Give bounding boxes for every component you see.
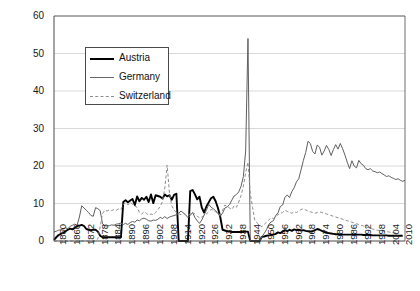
- x-tick-label: 1950: [266, 224, 276, 245]
- x-tick-label: 1860: [58, 224, 68, 245]
- x-tick-label: 1980: [335, 224, 345, 245]
- x-tick-label: 1992: [363, 224, 373, 245]
- x-tick-label: 2004: [391, 224, 401, 245]
- x-tick-label: 1986: [349, 224, 359, 245]
- x-tick-label: 1884: [113, 224, 123, 245]
- x-tick-label: 1968: [307, 224, 317, 245]
- x-tick-label: 1908: [169, 224, 179, 245]
- x-tick-label: 1920: [197, 224, 207, 245]
- legend-label-switzerland: Switzerland: [119, 91, 171, 101]
- y-tick-label: 60: [14, 11, 44, 21]
- x-tick-label: 1998: [377, 224, 387, 245]
- line-chart: 0102030405060 18601866187218781884189018…: [0, 0, 420, 291]
- y-tick-label: 0: [14, 236, 44, 246]
- x-tick-label: 1944: [252, 224, 262, 245]
- y-tick-label: 10: [14, 199, 44, 209]
- x-tick-label: 1914: [183, 224, 193, 245]
- x-tick-label: 1896: [141, 224, 151, 245]
- x-tick-label: 2010: [404, 224, 414, 245]
- x-tick-label: 1962: [294, 224, 304, 245]
- y-tick-label: 40: [14, 86, 44, 96]
- legend: Austria Germany Switzerland: [85, 47, 169, 105]
- y-tick-label: 50: [14, 49, 44, 59]
- legend-label-austria: Austria: [119, 53, 150, 63]
- x-tick-label: 1866: [72, 224, 82, 245]
- plot-canvas: [0, 0, 420, 291]
- legend-swatch-switzerland-icon: [90, 91, 114, 101]
- x-tick-label: 1902: [155, 224, 165, 245]
- legend-item-austria: Austria: [90, 49, 150, 67]
- y-tick-label: 30: [14, 124, 44, 134]
- legend-item-switzerland: Switzerland: [90, 87, 171, 105]
- x-tick-label: 1878: [100, 224, 110, 245]
- x-tick-label: 1974: [321, 224, 331, 245]
- x-tick-label: 1872: [86, 224, 96, 245]
- legend-swatch-germany-icon: [90, 72, 114, 82]
- gridlines: [54, 16, 405, 204]
- x-tick-label: 1926: [210, 224, 220, 245]
- x-tick-label: 1938: [238, 224, 248, 245]
- y-tick-label: 20: [14, 161, 44, 171]
- legend-label-germany: Germany: [119, 72, 160, 82]
- legend-item-germany: Germany: [90, 68, 160, 86]
- x-tick-label: 1890: [127, 224, 137, 245]
- legend-swatch-austria-icon: [90, 53, 114, 63]
- x-tick-label: 1956: [280, 224, 290, 245]
- x-tick-label: 1932: [224, 224, 234, 245]
